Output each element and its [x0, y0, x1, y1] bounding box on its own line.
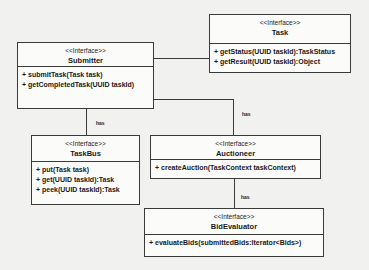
operation: + getStatus(UUID taskId):TaskStatus	[214, 47, 346, 57]
connector-submitter-auctioneer-h	[153, 99, 234, 100]
class-name: BidEvaluator	[145, 221, 323, 232]
stereotype-label: <<Interface>>	[210, 18, 350, 27]
operation: + getCompletedTask(UUID taskId)	[22, 80, 149, 90]
relation-label-submitter-taskbus: has	[96, 120, 105, 126]
operation: + getResult(UUID taskId):Object	[214, 57, 346, 67]
class-name: Auctioneer	[151, 148, 320, 159]
class-submitter: <<Interface>> Submitter + submitTask(Tas…	[17, 42, 154, 109]
operation: + createAuction(TaskContext taskContext)	[155, 163, 316, 173]
operation: + peek(UUID taskId):Task	[36, 185, 135, 195]
class-name: Submitter	[18, 55, 153, 66]
operation: + submitTask(Task task)	[22, 70, 149, 80]
connector-submitter-task	[153, 58, 209, 59]
class-name: Task	[210, 27, 350, 38]
connector-submitter-taskbus	[86, 108, 87, 135]
class-task: <<Interface>> Task + getStatus(UUID task…	[209, 14, 351, 73]
class-name: TaskBus	[32, 148, 139, 159]
connector-submitter-auctioneer-v	[233, 99, 234, 135]
class-taskbus: <<Interface>> TaskBus + put(Task task) +…	[31, 135, 140, 205]
stereotype-label: <<Interface>>	[151, 139, 320, 148]
stereotype-label: <<Interface>>	[145, 212, 323, 221]
operation: + evaluateBids(submittedBids:Iterator<Bi…	[149, 238, 319, 248]
relation-label-auctioneer-bidevaluator: has	[241, 194, 250, 200]
stereotype-label: <<Interface>>	[32, 139, 139, 148]
connector-auctioneer-bidevaluator	[234, 178, 235, 208]
operation: + put(Task task)	[36, 165, 135, 175]
stereotype-label: <<Interface>>	[18, 46, 153, 55]
relation-label-submitter-auctioneer: has	[242, 111, 251, 117]
operation: + get(UUID taskId):Task	[36, 175, 135, 185]
class-auctioneer: <<Interface>> Auctioneer + createAuction…	[150, 135, 321, 179]
class-bidevaluator: <<Interface>> BidEvaluator + evaluateBid…	[144, 208, 324, 257]
